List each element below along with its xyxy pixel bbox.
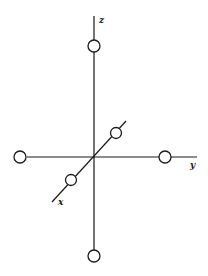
atoms-group [14, 40, 171, 262]
y-axis-label: y [189, 160, 196, 170]
atom-circle-y-minus [14, 151, 26, 163]
z-axis-label: z [98, 15, 105, 25]
atom-circle-z-plus [88, 40, 100, 52]
x-axis-label: x [57, 197, 64, 207]
atom-circle-z-minus [88, 250, 100, 262]
atom-circle-y-plus [159, 151, 171, 163]
octahedral-axes-diagram: zyx [0, 0, 208, 276]
atom-circle-x-plus [66, 175, 77, 186]
labels-group: zyx [57, 15, 196, 207]
atom-circle-x-minus [111, 128, 122, 139]
